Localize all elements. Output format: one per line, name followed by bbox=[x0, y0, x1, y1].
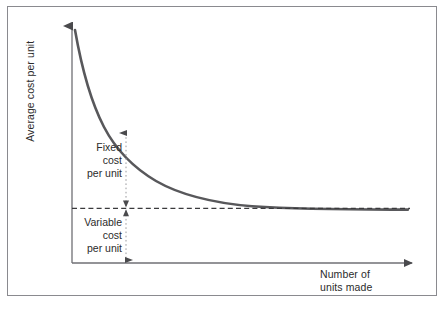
fixed-cost-per-unit-label: Fixed cost per unit bbox=[62, 141, 122, 180]
average-cost-per-unit-chart: Average cost per unit Number of units ma… bbox=[0, 0, 447, 310]
x-axis-title: Number of units made bbox=[320, 268, 430, 293]
average-cost-curve bbox=[75, 30, 408, 210]
variable-cost-per-unit-label: Variable cost per unit bbox=[58, 216, 122, 255]
fixed-cost-lower-arrowhead bbox=[123, 201, 129, 208]
y-axis-title: Average cost per unit bbox=[24, 21, 37, 161]
variable-cost-upper-arrowhead bbox=[123, 209, 129, 216]
